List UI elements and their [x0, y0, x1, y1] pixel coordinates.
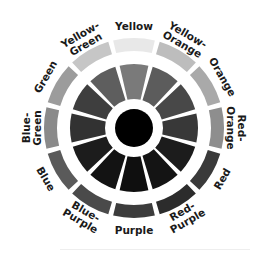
inner-wedge-purple — [120, 156, 149, 192]
center-core — [115, 109, 153, 147]
label-line: Orange — [225, 106, 237, 149]
label-line: Red — [211, 166, 233, 192]
label-line: Purple — [115, 224, 154, 236]
outer-segment-red-orange — [209, 107, 224, 149]
label-purple: Purple — [115, 224, 154, 236]
color-wheel-diagram: YellowYellow-OrangeOrangeRed-OrangeRedRe… — [0, 0, 268, 256]
outer-segment-yellow — [113, 38, 155, 53]
label-line: Yellow — [114, 20, 153, 32]
inner-wedge-yellow — [120, 64, 149, 100]
label-red: Red — [211, 166, 233, 192]
divider — [60, 249, 250, 250]
inner-wedge-red-orange — [162, 114, 198, 143]
label-yellow: Yellow — [114, 20, 153, 32]
inner-wedge-blue-green — [70, 114, 106, 143]
outer-segment-blue-green — [44, 107, 59, 149]
outer-segment-purple — [113, 203, 155, 218]
label-line: Green — [31, 110, 43, 146]
label-blue-green: Blue-Green — [20, 110, 43, 146]
label-red-orange: Red-Orange — [225, 106, 248, 149]
